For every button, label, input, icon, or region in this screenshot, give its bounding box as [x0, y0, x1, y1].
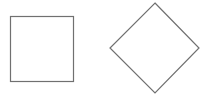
diagram-canvas	[0, 0, 211, 97]
square-shape	[11, 17, 74, 82]
diamond-shape	[110, 3, 199, 93]
